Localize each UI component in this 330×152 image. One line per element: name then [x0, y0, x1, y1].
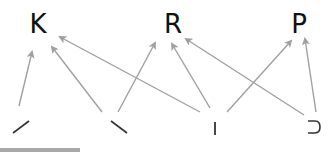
component-hook [308, 121, 320, 133]
arrows-layer [0, 0, 330, 152]
arrow-vertical-to-r [172, 44, 210, 108]
bottom-scroll-bar [0, 148, 80, 152]
component-backslash [111, 121, 127, 133]
arrow-vertical-to-k [60, 37, 200, 112]
arrow-hook-to-r [186, 39, 304, 115]
arrow-backslash-to-k [52, 47, 102, 112]
arrow-hook-to-p [305, 39, 316, 112]
arrow-vertical-to-p [227, 41, 291, 112]
component-slash [13, 121, 29, 133]
letter-composition-diagram: K R P [0, 0, 330, 152]
arrow-slash-to-k [19, 52, 32, 106]
